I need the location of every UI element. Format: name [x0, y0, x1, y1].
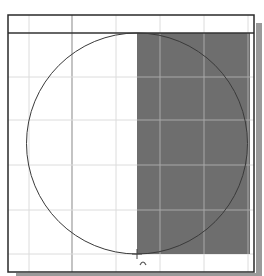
drawing-canvas[interactable]: [0, 0, 264, 276]
selection-rectangle[interactable]: [137, 33, 250, 254]
frame-shadow: [256, 23, 262, 276]
